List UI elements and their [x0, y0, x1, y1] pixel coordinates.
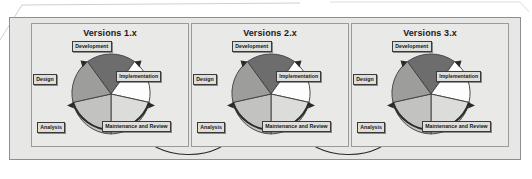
- segment-label-analysis[interactable]: Analysis: [37, 122, 65, 133]
- segment-label-development[interactable]: Development: [392, 41, 432, 52]
- segment-label-implementation[interactable]: Implementation: [276, 71, 321, 82]
- diagram-canvas: Versions 1.x: [0, 0, 532, 179]
- segment-label-design[interactable]: Design: [353, 74, 377, 85]
- segment-label-development[interactable]: Development: [72, 41, 112, 52]
- segment-label-maintenance[interactable]: Maintenance and Review: [262, 121, 331, 132]
- segment-label-development[interactable]: Development: [232, 41, 272, 52]
- version-panel-3[interactable]: Versions 3.x: [351, 23, 509, 147]
- segment-label-analysis[interactable]: Analysis: [197, 122, 225, 133]
- segment-label-design[interactable]: Design: [33, 74, 57, 85]
- version-panel-1[interactable]: Versions 1.x: [31, 23, 189, 147]
- segment-label-design[interactable]: Design: [193, 74, 217, 85]
- lifecycle-wheel: Development Implementation Maintenance a…: [32, 24, 188, 146]
- segment-label-maintenance[interactable]: Maintenance and Review: [422, 121, 491, 132]
- lifecycle-wheel: Development Implementation Maintenance a…: [192, 24, 348, 146]
- segment-label-analysis[interactable]: Analysis: [357, 122, 385, 133]
- segment-label-implementation[interactable]: Implementation: [116, 71, 161, 82]
- lifecycle-wheel: Development Implementation Maintenance a…: [352, 24, 508, 146]
- segment-label-maintenance[interactable]: Maintenance and Review: [102, 121, 171, 132]
- segment-label-implementation[interactable]: Implementation: [436, 71, 481, 82]
- version-panel-2[interactable]: Versions 2.x: [191, 23, 349, 147]
- outer-container-panel: Versions 1.x: [9, 17, 521, 160]
